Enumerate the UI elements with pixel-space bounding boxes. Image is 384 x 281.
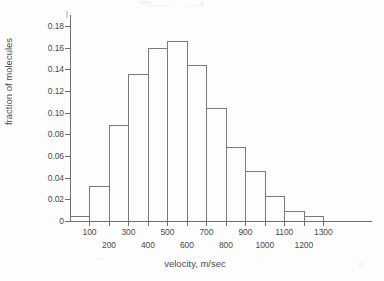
x-axis-tick-label: 1200: [295, 240, 314, 250]
x-axis-tick-label: 600: [180, 240, 194, 250]
x-axis-tick-label: 200: [102, 240, 116, 250]
y-axis-tick-label: 0.08: [48, 129, 64, 139]
scan-artifact: [66, 11, 68, 18]
x-axis-tick-label: 900: [238, 227, 252, 237]
y-axis-tick-label: 0.16: [48, 43, 64, 53]
x-axis-tick-label: 800: [219, 240, 233, 250]
x-axis-tick-label: 1100: [275, 227, 293, 237]
x-axis-tick-label: 300: [121, 227, 135, 237]
y-axis-tick-label: 0.18: [48, 21, 64, 31]
y-axis-tick-label: 0.04: [48, 173, 64, 183]
histogram-bar: [265, 196, 285, 221]
x-axis-tick-label: 700: [199, 227, 213, 237]
histogram-bar: [226, 147, 246, 221]
histogram-bar: [128, 74, 148, 221]
histogram-bar: [89, 186, 109, 221]
histogram-bar: [245, 171, 265, 221]
x-axis-tick-label: 500: [160, 227, 174, 237]
y-axis-tick-label: 0.14: [48, 64, 64, 74]
y-axis-tick-label: 0.12: [48, 86, 64, 96]
y-axis-tick-label: 0.02: [48, 194, 64, 204]
histogram-bar: [148, 48, 168, 221]
histogram-bar: [304, 216, 324, 221]
plot-area: [70, 15, 372, 222]
y-axis-tick-label: 0.06: [48, 151, 64, 161]
y-axis-tick-label: 0: [59, 216, 64, 226]
histogram-bar: [167, 41, 187, 221]
x-axis-tick-label: 1000: [256, 240, 275, 250]
histogram-bar: [109, 125, 129, 221]
y-axis-title: fraction of molecules: [3, 2, 14, 162]
y-axis-tick-label: 0.10: [48, 108, 64, 118]
histogram-bar: [206, 108, 226, 221]
histogram-bars: [70, 15, 372, 222]
x-axis-tick-label: 1300: [314, 227, 333, 237]
histogram-bar: [187, 65, 207, 221]
histogram-bar: [70, 216, 90, 221]
x-axis-tick-label: 400: [141, 240, 155, 250]
x-axis-tick-label: 100: [83, 227, 97, 237]
maxwell-boltzmann-histogram-figure: fraction of molecules velocity, m/sec 00…: [0, 0, 384, 281]
y-axis-tick-labels: 00.020.040.060.080.100.120.140.160.18: [24, 15, 64, 222]
histogram-bar: [284, 211, 304, 221]
